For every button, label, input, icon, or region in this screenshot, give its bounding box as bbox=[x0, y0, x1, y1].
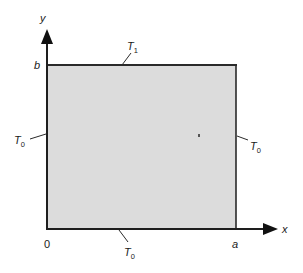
plate-diagram: y x b a 0 T1 T0 T0 T0 bbox=[0, 0, 303, 273]
top-boundary-label: T1 bbox=[127, 40, 138, 55]
y-axis-label: y bbox=[39, 12, 47, 24]
left-boundary-label: T0 bbox=[14, 134, 25, 149]
top-boundary-leader bbox=[122, 53, 131, 65]
x-axis-arrow-icon bbox=[263, 223, 278, 235]
x-extent-label: a bbox=[232, 238, 238, 250]
plate-region bbox=[47, 65, 236, 229]
bottom-boundary-label: T0 bbox=[124, 246, 135, 261]
plate-speck bbox=[198, 134, 200, 137]
right-boundary-leader bbox=[237, 136, 248, 140]
bottom-boundary-leader bbox=[119, 230, 128, 242]
origin-label: 0 bbox=[44, 238, 50, 250]
y-axis-arrow-icon bbox=[41, 29, 53, 44]
y-extent-label: b bbox=[34, 59, 40, 71]
x-axis-label: x bbox=[281, 223, 288, 235]
right-boundary-label: T0 bbox=[250, 140, 261, 155]
left-boundary-leader bbox=[30, 134, 46, 139]
